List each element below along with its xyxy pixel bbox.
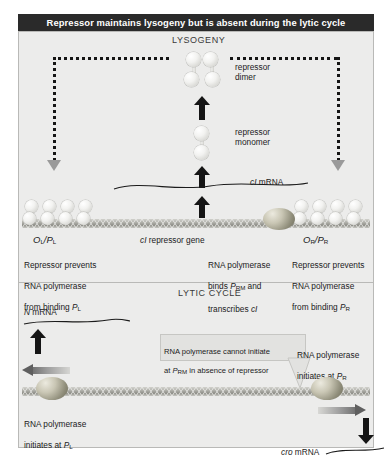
bound-right-base-4 <box>347 212 360 225</box>
cro-mrna-label: cro mRNA <box>281 447 319 457</box>
operator-left-label: OL/PL <box>33 235 56 248</box>
monomer-sphere-top <box>194 126 209 141</box>
dimer-sphere-top-left <box>186 52 201 67</box>
rna-polymerase-pl <box>36 377 68 400</box>
bound-left-sphere-3 <box>61 200 74 213</box>
cro-mrna-transcript <box>326 446 386 456</box>
feedback-path-left-vertical <box>53 57 56 161</box>
bound-left-base-2 <box>41 212 54 225</box>
feedback-path-left-horizontal <box>53 57 169 60</box>
bound-left-sphere-2 <box>43 200 56 213</box>
arrow-gene-to-mrna <box>194 196 210 218</box>
n-mrna-label: N mRNA <box>24 307 57 317</box>
cro-mrna-italic: cro <box>281 447 293 457</box>
leftward-transcription-arrow <box>22 364 70 377</box>
pl-sub: L <box>53 238 56 245</box>
dimer-sphere-bottom-right <box>205 72 220 87</box>
caption-pr-line1: RNA polymerase <box>297 350 359 360</box>
rna-polymerase-pr <box>311 377 343 400</box>
figure-root: Repressor maintains lysogeny but is abse… <box>0 0 390 461</box>
bound-left-sphere-4 <box>79 200 92 213</box>
caption-right-line1: Repressor prevents <box>292 260 364 270</box>
feedback-path-right-vertical <box>337 57 340 161</box>
lysogeny-heading: LYSOGENY <box>172 35 225 45</box>
operator-right-label: OR/PR <box>303 235 328 248</box>
repressor-dimer-label: repressor dimer <box>235 62 270 83</box>
n-mrna-transcript <box>22 318 132 326</box>
monomer-sphere-bottom <box>194 145 209 160</box>
caption-left-line2: RNA polymerase <box>24 281 96 291</box>
cro-mrna-rest: mRNA <box>293 447 320 457</box>
bound-right-sphere-3 <box>331 200 344 213</box>
feedback-path-right-horizontal <box>230 57 337 60</box>
rightward-transcription-arrow <box>318 404 366 417</box>
caption-right-lysogeny: Repressor prevents RNA polymerase from b… <box>292 250 364 325</box>
caption-pl-line2: initiates at PL <box>24 440 86 453</box>
prm-callout-text: RNA polymerase cannot initiate at PRM in… <box>164 337 270 386</box>
bound-right-base-3 <box>329 212 342 225</box>
caption-pl-line1: RNA polymerase <box>24 419 86 429</box>
bound-right-base-2 <box>311 212 324 225</box>
dimer-sphere-bottom-left <box>184 72 199 87</box>
lytic-cycle-heading: LYTIC CYCLE <box>178 288 241 298</box>
caption-right-line2: RNA polymerase <box>292 281 364 291</box>
bound-right-sphere-4 <box>349 200 362 213</box>
pr-sub: R <box>324 238 328 245</box>
caption-center-line3: transcribes cI <box>208 304 270 314</box>
arrow-n-transcription <box>30 329 46 354</box>
gene-label-rest: repressor gene <box>146 235 204 245</box>
feedback-arrow-left-head <box>47 160 61 171</box>
bound-left-base-1 <box>23 212 36 225</box>
ci-repressor-gene-label: cI repressor gene <box>140 235 205 245</box>
bound-left-sphere-1 <box>25 200 38 213</box>
caption-center-line1: RNA polymerase <box>208 260 270 270</box>
bound-right-sphere-2 <box>313 200 326 213</box>
bound-left-base-4 <box>77 212 90 225</box>
arrow-monomer-to-dimer <box>194 96 210 120</box>
rna-polymerase-prm <box>263 208 295 230</box>
ci-mrna-label: cI mRNA <box>250 177 283 187</box>
prm-callout-line1: RNA polymerase cannot initiate <box>164 347 270 357</box>
dimer-sphere-top-right <box>203 52 218 67</box>
repressor-monomer-label: repressor monomer <box>235 127 270 148</box>
ci-mrna-rest: mRNA <box>256 177 283 187</box>
bound-right-sphere-1 <box>295 200 308 213</box>
caption-initiates-pl: RNA polymerase initiates at PL <box>24 409 86 461</box>
n-mrna-rest: mRNA <box>30 307 57 317</box>
bound-left-base-3 <box>59 212 72 225</box>
arrow-cro-transcription <box>358 418 374 444</box>
feedback-arrow-right-head <box>331 160 345 171</box>
figure-title-bar: Repressor maintains lysogeny but is abse… <box>18 14 374 31</box>
prm-callout-line2: at PRM in absence of repressor <box>164 366 270 377</box>
caption-left-line1: Repressor prevents <box>24 260 96 270</box>
figure-title: Repressor maintains lysogeny but is abse… <box>47 17 346 28</box>
caption-right-line3: from binding PR <box>292 302 364 315</box>
